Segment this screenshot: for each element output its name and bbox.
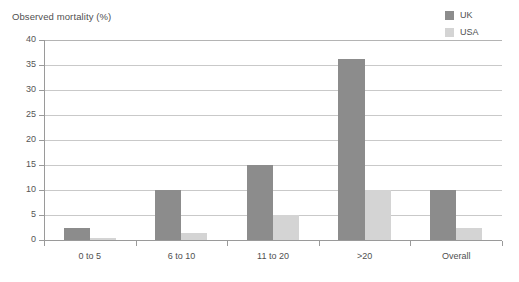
y-tick-label: 20 xyxy=(8,135,36,144)
y-tick-label: 10 xyxy=(8,185,36,194)
y-tick-mark xyxy=(39,65,44,66)
x-tick-mark xyxy=(319,241,320,246)
y-tick-mark xyxy=(39,190,44,191)
x-tick-label: 0 to 5 xyxy=(44,251,136,261)
x-tick-label: >20 xyxy=(319,251,411,261)
x-tick-mark xyxy=(136,241,137,246)
y-tick-mark xyxy=(39,165,44,166)
x-tick-mark xyxy=(410,241,411,246)
x-tick-mark xyxy=(227,241,228,246)
y-tick-mark xyxy=(39,90,44,91)
y-tick-label: 30 xyxy=(8,85,36,94)
y-tick-mark xyxy=(39,140,44,141)
y-tick-mark xyxy=(39,40,44,41)
plot-area: 05101520253035400 to 56 to 1011 to 20>20… xyxy=(0,0,519,282)
y-tick-mark xyxy=(39,115,44,116)
y-tick-label: 25 xyxy=(8,110,36,119)
x-tick-label: 6 to 10 xyxy=(136,251,228,261)
y-tick-label: 40 xyxy=(8,35,36,44)
x-tick-mark xyxy=(44,241,45,246)
y-tick-label: 0 xyxy=(8,235,36,244)
x-tick-label: Overall xyxy=(410,251,502,261)
y-tick-mark xyxy=(39,215,44,216)
y-tick-label: 15 xyxy=(8,160,36,169)
tick-labels: 05101520253035400 to 56 to 1011 to 20>20… xyxy=(0,0,519,282)
y-tick-label: 35 xyxy=(8,60,36,69)
x-tick-mark xyxy=(502,241,503,246)
y-tick-label: 5 xyxy=(8,210,36,219)
x-tick-label: 11 to 20 xyxy=(227,251,319,261)
chart-container: Observed mortality (%) UK USA 0510152025… xyxy=(0,0,519,282)
